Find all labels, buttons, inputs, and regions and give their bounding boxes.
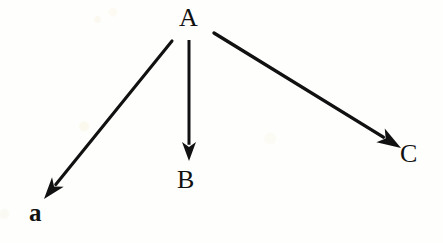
arrow-line-A-to-a: [56, 41, 172, 184]
arrow-layer: [0, 0, 443, 243]
arrow-a-to-b: [182, 40, 196, 161]
node-label-a: a: [29, 200, 42, 225]
arrow-head-A-to-B: [182, 142, 196, 161]
arrow-a-to-a: [44, 41, 172, 199]
node-label-B: B: [177, 167, 194, 193]
arrow-line-A-to-C: [214, 33, 383, 137]
node-label-A: A: [179, 5, 198, 31]
node-label-C: C: [400, 141, 417, 167]
arrow-head-A-to-C: [376, 129, 401, 148]
diagram-canvas: A a B C: [0, 0, 443, 243]
arrow-a-to-c: [214, 33, 401, 148]
